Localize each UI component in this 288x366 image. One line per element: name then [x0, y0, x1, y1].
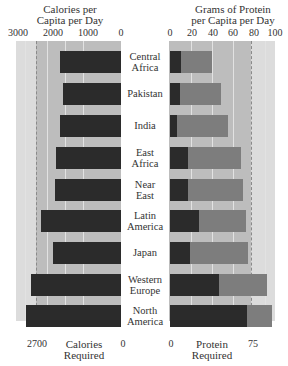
protein-required-label: Protein Required: [190, 339, 234, 361]
row-label-central-africa: CentralAfrica: [120, 51, 170, 73]
calories-bar-japan: [53, 242, 121, 264]
row-label-line: Central: [120, 51, 170, 62]
row-label-line: America: [120, 221, 170, 232]
row-label-western-europe: WesternEurope: [120, 274, 170, 296]
protein-animal-bar-latin-america: [170, 210, 199, 232]
calories-bar-india: [60, 115, 121, 137]
row-label-north-america: NorthAmerica: [120, 305, 170, 327]
calories-bar-pakistan: [63, 83, 121, 105]
row-label-latin-america: LatinAmerica: [120, 210, 170, 232]
row-label-line: America: [120, 316, 170, 327]
protein-title-line2: per Capita per Day: [178, 15, 288, 26]
protein-tick-20: 20: [187, 28, 197, 38]
calories-tick-2000: 2000: [43, 28, 63, 38]
protein-animal-bar-central-africa: [170, 51, 181, 73]
protein-tick-0: 0: [168, 28, 173, 38]
calories-bar-near-east: [55, 179, 121, 201]
row-label-line: Western: [120, 274, 170, 285]
protein-animal-bar-east-africa: [170, 147, 188, 169]
row-label-pakistan: Pakistan: [120, 88, 170, 99]
calories-title: Calories per Capita per Day: [30, 4, 110, 26]
row-label-line: Africa: [120, 158, 170, 169]
protein-bottom-tick-75: 75: [248, 339, 258, 349]
calories-bar-north-america: [26, 305, 121, 327]
protein-tick-40: 40: [208, 28, 218, 38]
calories-bottom-tick-2700: 2700: [27, 339, 47, 349]
protein-animal-bar-near-east: [170, 179, 188, 201]
row-label-line: Japan: [120, 247, 170, 258]
calories-bar-east-africa: [56, 147, 121, 169]
protein-required-line2: Required: [190, 350, 234, 361]
row-label-line: Near: [120, 179, 170, 190]
protein-animal-bar-western-europe: [170, 274, 219, 296]
row-label-india: India: [120, 120, 170, 131]
protein-tick-60: 60: [228, 28, 238, 38]
calories-tick-3000: 3000: [8, 28, 28, 38]
row-label-japan: Japan: [120, 247, 170, 258]
row-label-line: East: [120, 147, 170, 158]
row-label-line: East: [120, 190, 170, 201]
row-label-line: Pakistan: [120, 88, 170, 99]
calories-bar-central-africa: [60, 51, 121, 73]
protein-animal-bar-pakistan: [170, 83, 180, 105]
calories-tick-0: 0: [119, 28, 124, 38]
calories-title-line2: Capita per Day: [30, 15, 110, 26]
calories-bar-western-europe: [31, 274, 121, 296]
row-label-line: Europe: [120, 285, 170, 296]
protein-animal-bar-japan: [170, 242, 190, 264]
calories-required-line2: Required: [62, 350, 106, 361]
protein-bottom-tick-0: 0: [169, 339, 174, 349]
calories-tick-1000: 1000: [78, 28, 98, 38]
protein-animal-bar-india: [170, 115, 177, 137]
calories-bottom-tick-0: 0: [121, 339, 126, 349]
calories-bar-latin-america: [41, 210, 121, 232]
calories-gridline: [25, 41, 26, 321]
row-label-line: India: [120, 120, 170, 131]
row-label-east-africa: EastAfrica: [120, 147, 170, 169]
protein-total-bar-india: [170, 115, 228, 137]
protein-title: Grams of Protein per Capita per Day: [178, 4, 288, 26]
calories-required-label: Calories Required: [62, 339, 106, 361]
protein-tick-80: 80: [249, 28, 259, 38]
row-label-near-east: NearEast: [120, 179, 170, 201]
row-label-line: Africa: [120, 62, 170, 73]
row-label-line: Latin: [120, 210, 170, 221]
protein-animal-bar-north-america: [170, 305, 247, 327]
protein-tick-100: 100: [268, 28, 283, 38]
row-label-line: North: [120, 305, 170, 316]
